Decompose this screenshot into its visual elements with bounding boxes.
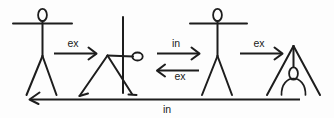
arrow-head-icon [30,93,40,105]
arrow-ex-2: ex [157,65,199,83]
arrow-in-1: in [157,37,200,60]
arrow-ex-3-label: ex [253,37,265,49]
breathing-sequence-svg: ex in ex ex in [0,0,334,118]
leg-right-line [108,56,133,95]
leg-left-line [27,56,43,95]
head-icon [213,9,222,21]
arrow-ex-2-label: ex [174,70,186,82]
foot-right-line [129,95,137,96]
arrow-in-return: in [30,93,301,116]
arrow-ex-1-label: ex [67,37,79,49]
leg-left-line [202,56,218,95]
back-line [108,56,134,57]
arrow-ex-1: ex [54,37,97,60]
arms-arc [281,79,305,96]
figure-forward-bend [80,17,143,96]
diagram-canvas: ex in ex ex in [0,0,334,118]
head-icon [38,9,47,21]
leg-left-line [80,56,108,97]
figure-standing-1 [13,9,72,95]
arrow-in-return-label: in [163,103,171,115]
arrow-in-1-label: in [172,37,180,49]
arrow-ex-3: ex [240,37,283,60]
leg-right-line [43,56,57,95]
leg-right-line [218,56,233,95]
